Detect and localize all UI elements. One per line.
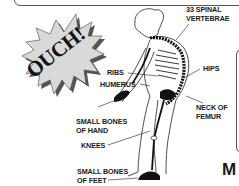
hand-bones-icon bbox=[114, 90, 130, 102]
label-knees: KNEES bbox=[81, 141, 105, 150]
label-neck-of-femur: NECK OF FEMUR bbox=[196, 103, 228, 121]
knee-icon bbox=[151, 136, 157, 140]
label-femur-line2: FEMUR bbox=[196, 112, 228, 121]
label-hand-line1: SMALL BONES bbox=[76, 117, 127, 126]
label-spinal-line2: VERTEBRAE bbox=[186, 14, 229, 23]
label-humerus: HUMERUS bbox=[100, 80, 136, 89]
figure-drawing bbox=[0, 0, 239, 186]
label-hand-line2: OF HAND bbox=[76, 126, 127, 135]
osteoporosis-illustration: OUCH! 33 SPINAL VERTEBRAE RIBS HUMERUS H… bbox=[0, 0, 239, 186]
label-hips: HIPS bbox=[203, 64, 219, 73]
label-spinal-vertebrae: 33 SPINAL VERTEBRAE bbox=[186, 5, 229, 23]
cut-off-heading: M bbox=[222, 160, 236, 180]
label-feet-line1: SMALL BONES bbox=[77, 167, 128, 176]
label-ribs: RIBS bbox=[107, 68, 124, 77]
foot-bones-icon bbox=[138, 172, 160, 181]
ribs-icon bbox=[155, 50, 179, 79]
label-small-bones-feet: SMALL BONES OF FEET bbox=[77, 167, 128, 185]
label-small-bones-hand: SMALL BONES OF HAND bbox=[76, 117, 127, 135]
label-spinal-line1: 33 SPINAL bbox=[186, 5, 229, 14]
label-femur-line1: NECK OF bbox=[196, 103, 228, 112]
label-feet-line2: OF FEET bbox=[77, 176, 128, 185]
leader-lines bbox=[98, 24, 203, 180]
